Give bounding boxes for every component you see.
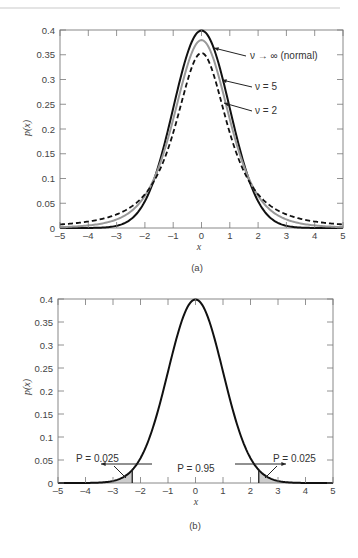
panel-b-caption: (b) <box>189 520 201 531</box>
y-tick-label: 0.4 <box>42 25 55 36</box>
x-tick-label: 3 <box>275 485 280 496</box>
x-tick-label: 5 <box>330 485 335 496</box>
y-tick-label: 0.2 <box>40 386 53 397</box>
y-tick-label: 0.25 <box>35 363 54 374</box>
x-tick-label: –3 <box>108 485 119 496</box>
x-tick-label: 1 <box>220 485 225 496</box>
y-tick-label: 0.2 <box>42 124 55 135</box>
panel-b-xlabel: x <box>193 496 199 507</box>
y-tick-label: 0.25 <box>37 99 56 110</box>
x-tick-label: –1 <box>163 485 174 496</box>
shaded-tail-region <box>259 470 333 483</box>
panel-a: –5–4–3–2–101234500.050.10.150.20.250.30.… <box>21 25 346 274</box>
panel-a-caption: (a) <box>191 262 203 273</box>
annotation-normal: ν → ∞ (normal) <box>250 50 318 61</box>
x-tick-label: 0 <box>199 230 204 241</box>
figure: –5–4–3–2–101234500.050.10.150.20.250.30.… <box>0 0 358 558</box>
annotation-left-tail: P = 0.025 <box>76 453 119 464</box>
y-tick-label: 0.05 <box>37 198 56 209</box>
y-tick-label: 0.3 <box>42 74 55 85</box>
annotation-arrow <box>222 80 252 87</box>
x-tick-label: 5 <box>340 230 345 241</box>
y-tick-label: 0.1 <box>40 432 53 443</box>
x-tick-label: 0 <box>193 485 198 496</box>
x-tick-label: 4 <box>312 230 317 241</box>
annotation-nu2: ν = 2 <box>255 105 277 116</box>
y-tick-label: 0.3 <box>40 340 53 351</box>
y-tick-label: 0 <box>48 478 53 489</box>
x-tick-label: 2 <box>255 230 260 241</box>
y-tick-label: 0.15 <box>37 148 56 159</box>
annotation-nu5: ν = 5 <box>255 81 277 92</box>
annotation-right-tail: P = 0.025 <box>273 453 316 464</box>
panel-a-ylabel: p(x) <box>21 119 33 137</box>
panel-b: –5–4–3–2–101234500.050.10.150.20.250.30.… <box>21 294 336 532</box>
x-tick-label: 4 <box>303 485 308 496</box>
x-tick-label: –5 <box>55 230 66 241</box>
x-tick-label: –2 <box>135 485 146 496</box>
panel-a-xlabel: x <box>196 241 202 252</box>
x-tick-label: –5 <box>53 485 64 496</box>
panel-b-ylabel: p(x) <box>21 378 33 396</box>
series-line-1 <box>60 40 343 227</box>
annotation-arrow <box>214 48 246 56</box>
shaded-tail-region <box>58 470 132 483</box>
x-tick-label: 2 <box>248 485 253 496</box>
x-tick-label: 1 <box>227 230 232 241</box>
x-tick-label: 3 <box>284 230 289 241</box>
x-tick-label: –3 <box>111 230 122 241</box>
y-tick-label: 0.35 <box>37 49 56 60</box>
y-tick-label: 0.4 <box>40 294 53 305</box>
y-tick-label: 0 <box>50 223 55 234</box>
x-tick-label: –4 <box>80 485 91 496</box>
y-tick-label: 0.1 <box>42 173 55 184</box>
annotation-center: P = 0.95 <box>177 463 215 474</box>
y-tick-label: 0.05 <box>35 455 54 466</box>
x-tick-label: –2 <box>140 230 151 241</box>
y-tick-label: 0.35 <box>35 317 54 328</box>
series-line-2 <box>60 53 343 224</box>
x-tick-label: –1 <box>168 230 179 241</box>
y-tick-label: 0.15 <box>35 409 54 420</box>
x-tick-label: –4 <box>83 230 94 241</box>
